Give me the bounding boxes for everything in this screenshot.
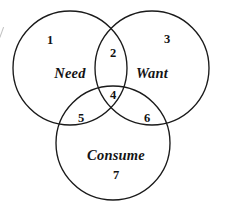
set-label-need: Need	[54, 65, 85, 82]
region-number-1: 1	[47, 33, 53, 48]
region-number-5: 5	[78, 111, 84, 126]
region-number-7: 7	[113, 168, 119, 183]
venn-diagram-figure: Need Want Consume 1 2 3 4 5 6 7	[0, 0, 230, 214]
region-number-4: 4	[110, 88, 116, 103]
region-number-6: 6	[144, 111, 150, 126]
region-number-3: 3	[164, 32, 170, 47]
set-label-want: Want	[136, 65, 168, 82]
circle-consume	[56, 86, 170, 200]
region-number-2: 2	[110, 46, 116, 61]
set-label-consume: Consume	[87, 147, 145, 164]
